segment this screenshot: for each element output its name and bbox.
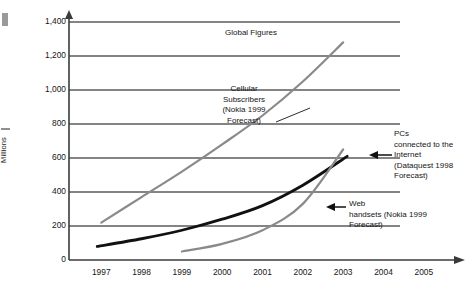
annotation-web-handsets: Web handsets (Nokia 1999 Forecast) bbox=[349, 199, 459, 231]
annotation-pcs-connected-internet: PCs connected to the Internet (Dataquest… bbox=[394, 129, 476, 182]
y-axis-arrow-icon bbox=[65, 10, 73, 19]
chart-figure: Millions 1,4001,2001,0008006004002000 19… bbox=[0, 0, 476, 294]
annotation-cellular-subscribers: Cellular Subscribers (Nokia 1999 Forecas… bbox=[196, 84, 292, 126]
annotation-arrow-web-icon bbox=[326, 203, 335, 211]
x-axis-arrow-icon bbox=[454, 256, 465, 264]
annotation-global-figures: Global Figures bbox=[196, 28, 306, 39]
series-cellular-subscribers bbox=[101, 42, 343, 222]
series-web-handsets bbox=[182, 150, 343, 252]
